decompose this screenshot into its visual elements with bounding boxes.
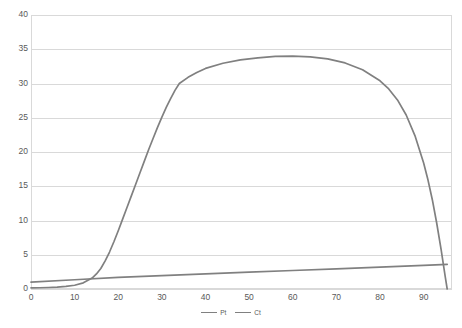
legend-line-icon (235, 312, 251, 313)
legend-label: Ct (254, 309, 261, 316)
y-tick-label: 35 (0, 44, 28, 53)
y-tick-label: 20 (0, 147, 28, 156)
y-tick-label: 15 (0, 181, 28, 190)
series-layer (31, 15, 452, 289)
x-tick-label: 50 (229, 292, 269, 302)
legend-item[interactable]: Ct (235, 309, 261, 316)
legend-item[interactable]: Pt (201, 309, 226, 316)
y-tick-label: 10 (0, 216, 28, 225)
series-line-ct (31, 264, 447, 282)
y-tick-label: 25 (0, 113, 28, 122)
x-tick-label: 40 (186, 292, 226, 302)
line-chart: 0510152025303540 0102030405060708090 PtC… (0, 0, 462, 328)
x-tick-label: 20 (98, 292, 138, 302)
x-tick-label: 90 (404, 292, 444, 302)
x-tick-label: 60 (273, 292, 313, 302)
y-tick-label: 40 (0, 10, 28, 19)
chart-legend: PtCt (0, 309, 462, 316)
y-tick-label: 30 (0, 79, 28, 88)
x-tick-label: 70 (316, 292, 356, 302)
x-tick-label: 0 (11, 292, 51, 302)
legend-label: Pt (220, 309, 226, 316)
series-line-pt (31, 56, 447, 289)
x-axis: 0102030405060708090 (0, 292, 462, 306)
y-axis: 0510152025303540 (0, 0, 28, 328)
x-tick-label: 30 (142, 292, 182, 302)
x-tick-label: 10 (55, 292, 95, 302)
gridline (31, 289, 452, 290)
plot-area (31, 15, 452, 289)
x-tick-label: 80 (360, 292, 400, 302)
y-tick-label: 5 (0, 250, 28, 259)
legend-line-icon (201, 312, 217, 313)
